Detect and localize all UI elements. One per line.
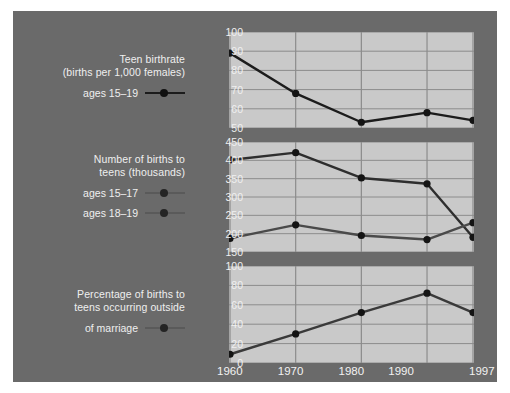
data-point-marker: [358, 174, 365, 181]
legend-group-number-of-births: Number of births to teens (thousands) ag…: [13, 153, 195, 219]
data-point-marker: [292, 221, 299, 228]
panel-percentage-outside-marriage-svg: [229, 266, 474, 363]
series-layer: [229, 50, 474, 126]
data-point-marker: [292, 90, 299, 97]
data-point-marker: [292, 149, 299, 156]
series-layer: [229, 149, 474, 243]
series-line: [230, 223, 473, 240]
data-point-marker: [229, 351, 234, 358]
legend-marker-icon: [145, 323, 185, 334]
legend-entry-percentage: of marriage: [13, 322, 195, 334]
data-point-marker: [469, 117, 474, 124]
series-line: [230, 153, 473, 238]
legend-entry-label: of marriage: [85, 322, 138, 334]
legend-group-percentage-outside-marriage: Percentage of births to teens occurring …: [13, 288, 195, 334]
chart-plot-area: 5060708090100150200250300350400450020406…: [213, 11, 497, 382]
legend-entry-label: ages 18–19: [83, 207, 138, 219]
panel-number-of-births: [229, 142, 474, 252]
data-point-marker: [358, 309, 365, 316]
x-axis-tick-label: 1960: [217, 365, 243, 378]
legend-entry-label: ages 15–19: [83, 87, 138, 99]
chart-legend: Teen birthrate (births per 1,000 females…: [13, 11, 195, 382]
data-point-marker: [229, 235, 234, 242]
legend-entry-ages-15-19: ages 15–19: [13, 87, 195, 99]
data-point-marker: [292, 330, 299, 337]
x-axis-tick-labels: 19601970198019901997: [213, 365, 497, 381]
legend-marker-icon: [145, 208, 185, 219]
legend-title-line1: Teen birthrate: [13, 53, 195, 66]
data-point-marker: [469, 219, 474, 226]
legend-marker-icon: [145, 88, 185, 99]
data-point-marker: [358, 119, 365, 126]
legend-entry-ages-15-17: ages 15–17: [13, 187, 195, 199]
x-axis-tick-label: 1990: [388, 365, 414, 378]
panel-teen-birthrate: [229, 32, 474, 128]
x-axis-tick-label: 1997: [469, 365, 495, 378]
chart-figure: Teen birthrate (births per 1,000 females…: [13, 11, 497, 382]
data-point-marker: [423, 290, 430, 297]
panel-number-of-births-svg: [229, 142, 474, 252]
legend-group-teen-birthrate: Teen birthrate (births per 1,000 females…: [13, 53, 195, 99]
series-line: [230, 53, 473, 122]
x-axis-tick-label: 1970: [278, 365, 304, 378]
legend-title-line2: teens occurring outside: [13, 301, 195, 314]
data-point-marker: [229, 156, 234, 163]
data-point-marker: [423, 109, 430, 116]
x-axis-tick-label: 1980: [339, 365, 365, 378]
data-point-marker: [358, 232, 365, 239]
data-point-marker: [423, 236, 430, 243]
panel-percentage-outside-marriage: [229, 266, 474, 363]
legend-entry-label: ages 15–17: [83, 187, 138, 199]
legend-marker-icon: [145, 188, 185, 199]
legend-title-line1: Number of births to: [13, 153, 195, 166]
legend-entry-ages-18-19: ages 18–19: [13, 207, 195, 219]
data-point-marker: [423, 180, 430, 187]
legend-title-line1: Percentage of births to: [13, 288, 195, 301]
legend-title-line2: (births per 1,000 females): [13, 66, 195, 79]
legend-title-line2: teens (thousands): [13, 166, 195, 179]
panel-teen-birthrate-svg: [229, 32, 474, 128]
